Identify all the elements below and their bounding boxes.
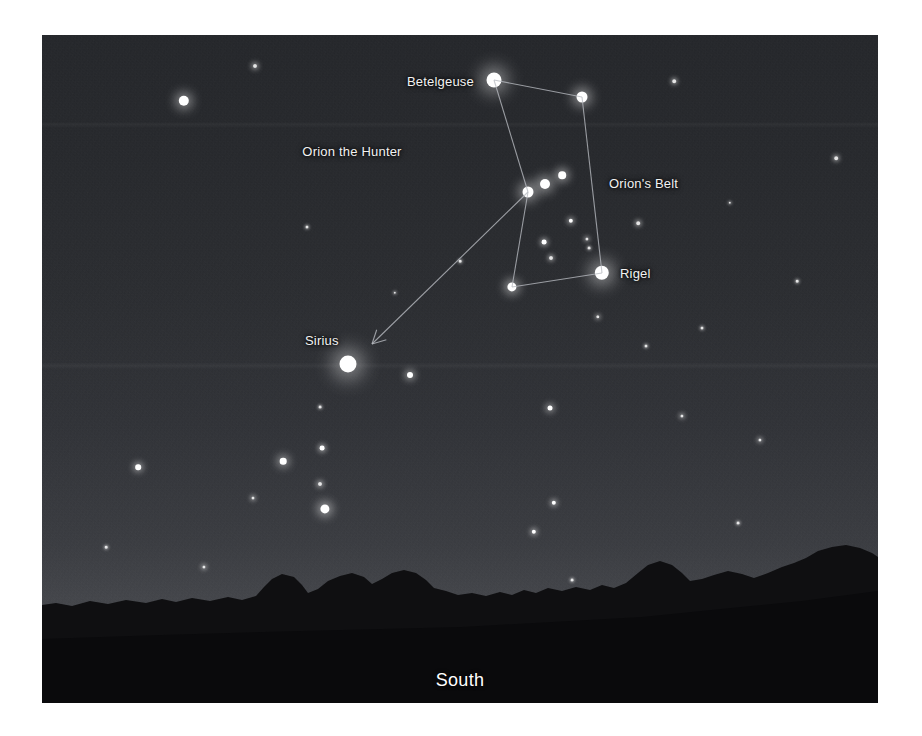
label-orions-belt: Orion's Belt <box>609 176 678 191</box>
label-sirius: Sirius <box>305 333 339 348</box>
label-orion-the-hunter: Orion the Hunter <box>302 144 401 159</box>
night-sky-photo: BetelgeuseOrion's BeltRigelSiriusOrion t… <box>42 35 878 703</box>
label-betelgeuse: Betelgeuse <box>407 74 474 89</box>
label-rigel: Rigel <box>620 266 651 281</box>
label-south: South <box>436 670 485 691</box>
screenshot-root: BetelgeuseOrion's BeltRigelSiriusOrion t… <box>0 0 922 736</box>
